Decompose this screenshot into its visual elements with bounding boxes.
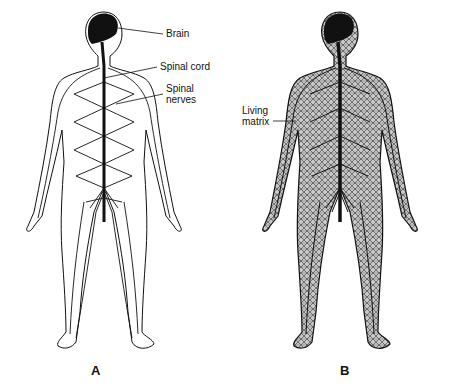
panel-b-body: [263, 12, 418, 348]
panel-a-body: [27, 12, 182, 348]
panel-label-b: B: [340, 363, 349, 378]
body-illustrations: [0, 0, 453, 389]
panel-label-a: A: [91, 363, 100, 378]
label-spinal-cord: Spinal cord: [160, 61, 210, 72]
label-spinal-nerves: Spinal nerves: [166, 83, 196, 105]
figure: Brain Spinal cord Spinal nerves Living m…: [0, 0, 453, 389]
label-living-matrix: Living matrix: [242, 105, 269, 127]
label-brain: Brain: [166, 28, 189, 39]
